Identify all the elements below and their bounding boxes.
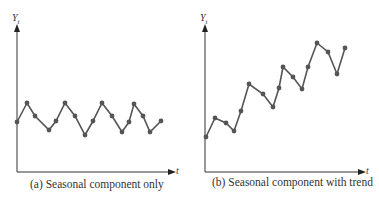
panel-a-series	[15, 101, 164, 138]
data-point	[83, 133, 88, 138]
panel-b-series	[204, 41, 348, 140]
data-point	[120, 130, 125, 135]
data-point	[281, 65, 286, 70]
data-point	[239, 109, 244, 114]
data-point	[291, 75, 296, 80]
data-point	[100, 101, 105, 106]
data-point	[271, 105, 276, 110]
panel-a-y-label: Yt	[12, 12, 20, 26]
panel-a-axes	[17, 28, 172, 172]
data-point	[127, 120, 132, 125]
data-point	[306, 65, 311, 70]
data-point	[148, 130, 153, 135]
data-point	[232, 129, 237, 134]
panel-a-caption: (a) Seasonal component only	[30, 178, 164, 190]
data-point	[132, 102, 137, 107]
data-point	[33, 114, 38, 119]
data-point	[54, 119, 59, 124]
data-point	[110, 114, 115, 119]
data-point	[15, 120, 20, 125]
data-point	[73, 114, 78, 119]
data-point	[224, 121, 229, 126]
data-point	[277, 86, 282, 91]
series-line	[17, 103, 161, 135]
data-point	[315, 41, 320, 46]
data-point	[47, 128, 52, 133]
figure-canvas	[0, 0, 379, 199]
data-point	[141, 114, 146, 119]
data-point	[335, 72, 340, 77]
panel-b-caption: (b) Seasonal component with trend	[212, 176, 373, 188]
panel-b-x-label: t	[366, 165, 369, 176]
data-point	[343, 46, 348, 51]
data-point	[247, 82, 252, 87]
panel-a-x-label: t	[176, 165, 179, 176]
data-point	[63, 101, 68, 106]
data-point	[204, 135, 209, 140]
data-point	[326, 50, 331, 55]
data-point	[25, 101, 30, 106]
data-point	[261, 92, 266, 97]
data-point	[159, 119, 164, 124]
panel-b-y-label: Yt	[200, 12, 208, 26]
data-point	[91, 119, 96, 124]
data-point	[213, 116, 218, 121]
data-point	[300, 87, 305, 92]
panel-b-axes	[205, 28, 362, 172]
